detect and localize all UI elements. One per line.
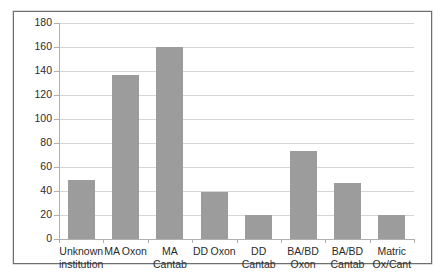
x-axis-tick bbox=[370, 239, 371, 243]
x-axis-label-line: Cantab bbox=[322, 258, 372, 271]
y-axis-tick-20 bbox=[54, 215, 59, 216]
y-axis-label: 120 bbox=[18, 89, 52, 100]
y-axis-label: 60 bbox=[18, 161, 52, 172]
bar bbox=[112, 75, 139, 239]
bars-group bbox=[59, 23, 414, 239]
bar bbox=[378, 215, 405, 239]
x-axis-tick bbox=[59, 239, 60, 243]
x-axis-label: DD Cantab bbox=[234, 245, 284, 271]
y-axis-tick-0 bbox=[54, 239, 59, 240]
bar bbox=[68, 180, 95, 239]
x-axis-tick bbox=[414, 239, 415, 243]
y-axis-label: 100 bbox=[18, 113, 52, 124]
x-axis-label-line: Matric bbox=[367, 245, 417, 258]
x-axis-label: MA Oxon bbox=[100, 245, 150, 258]
y-axis-tick-140 bbox=[54, 71, 59, 72]
x-axis-label-line: institution bbox=[56, 258, 106, 271]
bar bbox=[334, 183, 361, 239]
x-axis-label-line: MA Oxon bbox=[100, 245, 150, 258]
x-axis-label: MatricOx/Cant bbox=[367, 245, 417, 271]
x-axis-label-line: Unknown bbox=[56, 245, 106, 258]
x-axis-label: MA Cantab bbox=[145, 245, 195, 271]
x-axis-label: BA/BDCantab bbox=[322, 245, 372, 271]
bar bbox=[201, 192, 228, 239]
x-axis-label-line: Ox/Cant bbox=[367, 258, 417, 271]
y-axis-tick-180 bbox=[54, 23, 59, 24]
y-axis-label: 140 bbox=[18, 65, 52, 76]
y-axis-label: 0 bbox=[18, 233, 52, 244]
x-axis-label-line: BA/BD bbox=[322, 245, 372, 258]
x-axis-tick bbox=[192, 239, 193, 243]
y-axis-tick-40 bbox=[54, 191, 59, 192]
y-axis-label-group: 020406080100120140160180 bbox=[14, 12, 52, 263]
x-axis-tick bbox=[103, 239, 104, 243]
x-axis-label-line: DD Oxon bbox=[189, 245, 239, 258]
x-axis-label-line: MA Cantab bbox=[145, 245, 195, 271]
bar bbox=[290, 151, 317, 239]
y-axis-tick-80 bbox=[54, 143, 59, 144]
bar bbox=[245, 215, 272, 239]
x-axis-label-line: DD Cantab bbox=[234, 245, 284, 271]
x-axis-label-line: BA/BD bbox=[278, 245, 328, 258]
y-axis-tick-100 bbox=[54, 119, 59, 120]
x-axis-tick bbox=[237, 239, 238, 243]
x-axis-label-group: UnknowninstitutionMA OxonMA CantabDD Oxo… bbox=[59, 245, 414, 280]
x-axis-label: Unknowninstitution bbox=[56, 245, 106, 271]
bar-chart: 020406080100120140160180 Unknowninstitut… bbox=[13, 11, 432, 264]
y-axis-tick-160 bbox=[54, 47, 59, 48]
y-axis-label: 160 bbox=[18, 41, 52, 52]
x-axis-tick bbox=[325, 239, 326, 243]
y-axis-tick-60 bbox=[54, 167, 59, 168]
x-axis-label: BA/BDOxon bbox=[278, 245, 328, 271]
bar bbox=[156, 47, 183, 239]
x-axis-label: DD Oxon bbox=[189, 245, 239, 258]
x-axis-tick bbox=[281, 239, 282, 243]
y-axis-label: 40 bbox=[18, 185, 52, 196]
y-axis-label: 80 bbox=[18, 137, 52, 148]
y-axis-label: 180 bbox=[18, 17, 52, 28]
y-axis-tick-120 bbox=[54, 95, 59, 96]
y-axis-label: 20 bbox=[18, 209, 52, 220]
x-axis-tick bbox=[148, 239, 149, 243]
x-axis-tick-group bbox=[59, 239, 414, 243]
x-axis-label-line: Oxon bbox=[278, 258, 328, 271]
